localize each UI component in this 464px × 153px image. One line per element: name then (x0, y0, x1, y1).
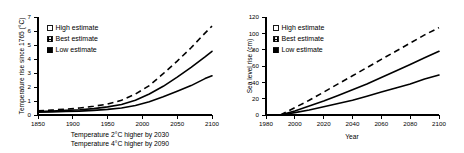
x-tick-label: 2060 (374, 120, 388, 127)
x-tick-label: 1850 (31, 120, 45, 127)
x-tick-label: 2040 (346, 120, 360, 127)
legend-swatch-low-estimate (273, 48, 278, 53)
x-axis-ticks (266, 115, 439, 119)
legend-swatch-low-estimate (47, 48, 52, 53)
curve-best-estimate (280, 51, 439, 115)
legend-label-best-estimate: Best estimate (56, 35, 99, 42)
y-tick-label: 20 (252, 95, 259, 102)
temperature-plot: 0 1 2 3 4 5 6 7 1850 1900 1950 (0, 0, 232, 153)
legend-swatch-high-estimate (273, 26, 278, 31)
x-tick-label: 1980 (259, 120, 273, 127)
y-tick-label: 5 (28, 41, 32, 48)
legend-swatch-high-estimate (47, 26, 52, 31)
y-tick-label: 2 (28, 83, 32, 90)
axis-lines (38, 17, 212, 115)
x-axis-ticks (38, 115, 212, 119)
y-axis-tick-labels: 0 1 2 3 4 5 6 7 (28, 13, 32, 118)
y-axis-label: Sea level rise (cm) (246, 39, 254, 94)
x-tick-label: 2020 (317, 120, 331, 127)
temperature-panel: 0 1 2 3 4 5 6 7 1850 1900 1950 (0, 0, 232, 153)
curve-low-estimate (38, 76, 212, 112)
y-tick-label: 100 (249, 30, 260, 37)
x-axis-tick-labels: 1980 2000 2020 2040 2060 2080 2100 (259, 120, 446, 127)
y-tick-label: 1 (28, 97, 32, 104)
y-tick-label: 4 (28, 55, 32, 62)
legend-label-best-estimate: Best estimate (282, 35, 325, 42)
x-tick-label: 1900 (66, 120, 80, 127)
sea-level-plot: 0 20 40 60 80 100 120 1980 2000 (232, 0, 464, 153)
x-tick-label: 2000 (288, 120, 302, 127)
y-tick-label: 0 (256, 111, 260, 118)
caption-line-1: Temperature 2°C higher by 2030 (71, 131, 170, 139)
x-tick-label: 2100 (432, 120, 446, 127)
legend-label-high-estimate: High estimate (56, 24, 99, 32)
y-axis-ticks (34, 17, 38, 115)
legend-label-low-estimate: Low estimate (56, 46, 97, 53)
curve-low-estimate (280, 75, 439, 115)
y-tick-label: 0 (28, 111, 32, 118)
y-tick-label: 120 (249, 13, 260, 20)
legend-label-high-estimate: High estimate (282, 24, 325, 32)
climate-projection-figure: 0 1 2 3 4 5 6 7 1850 1900 1950 (0, 0, 464, 153)
x-tick-label: 2080 (403, 120, 417, 127)
legend-label-low-estimate: Low estimate (282, 46, 323, 53)
legend: High estimate Best estimate Low estimate (273, 24, 324, 53)
x-tick-label: 2100 (205, 120, 219, 127)
y-tick-label: 60 (252, 62, 259, 69)
x-tick-label: 2000 (136, 120, 150, 127)
x-tick-label: 2050 (170, 120, 184, 127)
y-axis-label: Temperature rise since 1765 (°C) (18, 18, 26, 115)
legend: High estimate Best estimate Low estimate (47, 24, 98, 53)
y-tick-label: 3 (28, 69, 32, 76)
y-tick-label: 80 (252, 46, 259, 53)
caption-line-2: Temperature 4°C higher by 2090 (71, 140, 170, 148)
y-tick-label: 40 (252, 79, 259, 86)
sea-level-panel: 0 20 40 60 80 100 120 1980 2000 (232, 0, 464, 153)
x-tick-label: 1950 (101, 120, 115, 127)
legend-swatch-best-estimate (47, 37, 52, 42)
legend-swatch-best-estimate (273, 37, 278, 42)
x-axis-tick-labels: 1850 1900 1950 2000 2050 2100 (31, 120, 219, 127)
y-axis-ticks (262, 17, 266, 115)
y-tick-label: 7 (28, 13, 32, 20)
curve-best-estimate (38, 51, 212, 111)
y-tick-label: 6 (28, 27, 32, 34)
x-axis-label: Year (345, 133, 359, 140)
